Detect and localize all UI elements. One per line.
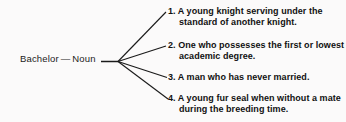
root-separator-dash: — <box>59 53 73 64</box>
sense-text: A young fur seal when without a mate dur… <box>178 93 341 114</box>
sense-text: A young knight serving under the standar… <box>178 6 323 27</box>
sense-list: 1. A young knight serving under the stan… <box>168 0 346 122</box>
root-part-of-speech: Noun <box>72 53 95 64</box>
sense-text: One who possesses the first or lowest ac… <box>178 40 344 61</box>
sense-item: 4. A young fur seal when without a mate … <box>168 93 346 116</box>
sense-item: 1. A young knight serving under the stan… <box>168 6 346 29</box>
sense-number: 2. <box>168 40 176 50</box>
root-headword: Bachelor <box>20 53 59 64</box>
sense-number: 3. <box>168 72 176 82</box>
sense-text: A man who has never married. <box>178 72 310 82</box>
sense-number: 1. <box>168 6 176 16</box>
sense-item: 2. One who possesses the first or lowest… <box>168 40 346 63</box>
branch-line-4 <box>118 62 168 100</box>
word-sense-tree-diagram: Bachelor—Noun 1. A young knight serving … <box>0 0 346 122</box>
sense-number: 4. <box>168 93 176 103</box>
branch-line-3 <box>118 62 167 78</box>
sense-item: 3. A man who has never married. <box>168 72 346 83</box>
root-node-label: Bachelor—Noun <box>20 53 96 64</box>
